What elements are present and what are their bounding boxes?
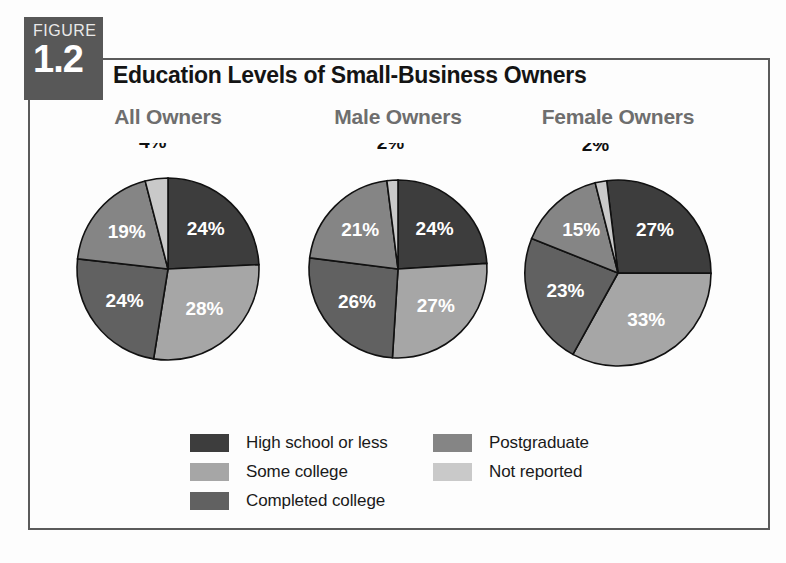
figure-number-badge: FIGURE 1.2 bbox=[24, 17, 103, 100]
color-swatch-icon bbox=[190, 463, 229, 481]
slice-value-label: 26% bbox=[338, 291, 376, 312]
pie-heading-all-owners: All Owners bbox=[48, 105, 288, 129]
pie-chart-male-owners: Male Owners 24%27%26%21%2% bbox=[278, 105, 518, 415]
legend-item: Some college bbox=[190, 459, 388, 484]
pie-heading-female-owners: Female Owners bbox=[498, 105, 738, 129]
legend-label: Not reported bbox=[489, 462, 582, 482]
slice-value-label: 2% bbox=[582, 143, 610, 155]
legend-label: High school or less bbox=[246, 433, 388, 453]
pie-chart-all-owners: All Owners 24%28%24%19%4% bbox=[48, 105, 288, 415]
pie-canvas-female-owners: 27%33%23%15%2% bbox=[498, 143, 738, 393]
color-swatch-icon bbox=[190, 492, 229, 510]
pie-chart-group: All Owners 24%28%24%19%4% Male Owners 24… bbox=[30, 105, 768, 415]
pie-heading-male-owners: Male Owners bbox=[278, 105, 518, 129]
legend-item: Completed college bbox=[190, 488, 388, 513]
slice-value-label: 24% bbox=[106, 290, 144, 311]
legend-label: Some college bbox=[246, 462, 348, 482]
color-swatch-icon bbox=[190, 434, 229, 452]
legend-label: Postgraduate bbox=[489, 433, 589, 453]
pie-canvas-all-owners: 24%28%24%19%4% bbox=[48, 143, 288, 393]
slice-value-label: 21% bbox=[341, 219, 379, 240]
slice-value-label: 28% bbox=[185, 298, 223, 319]
slice-value-label: 4% bbox=[139, 143, 167, 152]
slice-value-label: 15% bbox=[562, 219, 600, 240]
slice-value-label: 23% bbox=[546, 280, 584, 301]
legend: High school or lessSome collegeCompleted… bbox=[190, 430, 750, 515]
slice-value-label: 24% bbox=[187, 218, 225, 239]
pie-svg: 24%28%24%19%4% bbox=[68, 143, 268, 369]
legend-column-one: High school or lessSome collegeCompleted… bbox=[190, 430, 388, 517]
legend-item: Postgraduate bbox=[433, 430, 589, 455]
legend-item: Not reported bbox=[433, 459, 589, 484]
pie-chart-female-owners: Female Owners 27%33%23%15%2% bbox=[498, 105, 738, 415]
pie-svg: 24%27%26%21%2% bbox=[300, 143, 496, 365]
color-swatch-icon bbox=[433, 434, 472, 452]
figure-badge-number: 1.2 bbox=[33, 39, 103, 79]
pie-canvas-male-owners: 24%27%26%21%2% bbox=[278, 143, 518, 393]
legend-label: Completed college bbox=[246, 491, 385, 511]
slice-value-label: 19% bbox=[108, 221, 146, 242]
color-swatch-icon bbox=[433, 463, 472, 481]
slice-value-label: 24% bbox=[416, 218, 454, 239]
slice-value-label: 27% bbox=[636, 219, 674, 240]
legend-item: High school or less bbox=[190, 430, 388, 455]
figure-title: Education Levels of Small-Business Owner… bbox=[113, 62, 586, 89]
slice-value-label: 27% bbox=[417, 295, 455, 316]
slice-value-label: 2% bbox=[377, 143, 405, 153]
figure-root: FIGURE 1.2 Education Levels of Small-Bus… bbox=[0, 0, 786, 563]
legend-column-two: PostgraduateNot reported bbox=[433, 430, 589, 488]
slice-value-label: 33% bbox=[627, 309, 665, 330]
pie-svg: 27%33%23%15%2% bbox=[516, 143, 720, 373]
